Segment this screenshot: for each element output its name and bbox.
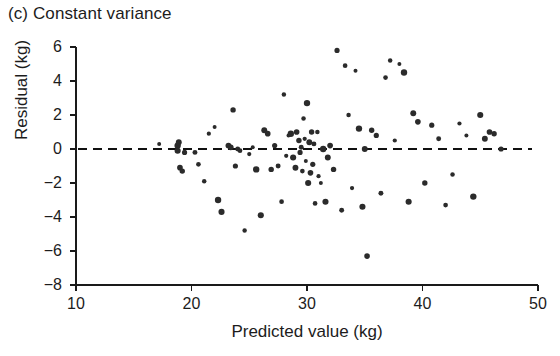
data-point xyxy=(297,150,302,155)
data-point xyxy=(251,145,255,149)
data-point xyxy=(180,168,185,173)
data-point xyxy=(230,107,235,112)
data-point xyxy=(477,112,483,118)
data-point xyxy=(176,139,182,145)
data-point xyxy=(311,141,316,146)
data-point xyxy=(293,165,299,171)
data-point xyxy=(327,143,333,149)
data-point xyxy=(258,212,264,218)
data-point xyxy=(284,154,288,158)
data-point xyxy=(331,167,336,172)
residual-scatter-figure: (c) Constant variance Residual (kg) Pred… xyxy=(0,0,560,356)
data-point xyxy=(369,128,374,133)
data-point xyxy=(401,69,407,75)
data-point xyxy=(378,191,383,196)
data-point xyxy=(290,154,296,160)
data-point xyxy=(196,162,201,167)
data-point xyxy=(268,167,273,172)
data-point xyxy=(415,119,421,125)
data-point xyxy=(294,129,300,135)
data-point xyxy=(193,150,198,155)
data-point xyxy=(436,136,441,141)
data-point xyxy=(300,169,305,174)
data-point xyxy=(410,110,416,116)
data-point xyxy=(304,159,308,163)
data-point xyxy=(443,203,448,208)
data-point xyxy=(215,197,221,203)
data-point xyxy=(397,62,401,66)
data-point xyxy=(299,145,304,150)
data-point xyxy=(238,148,243,153)
data-point xyxy=(364,253,370,259)
data-point xyxy=(276,164,281,169)
data-point xyxy=(406,199,412,205)
scatter-points xyxy=(157,48,503,259)
data-point xyxy=(374,133,379,138)
data-point xyxy=(272,143,277,148)
data-point xyxy=(388,58,392,62)
data-point xyxy=(207,132,211,136)
data-point xyxy=(218,209,224,215)
data-point xyxy=(383,75,388,80)
plot-canvas xyxy=(0,0,560,356)
data-point xyxy=(325,155,331,161)
data-point xyxy=(308,170,314,176)
data-point xyxy=(233,163,238,168)
data-point xyxy=(322,199,328,205)
data-point xyxy=(429,123,434,128)
data-point xyxy=(346,113,350,117)
data-point xyxy=(450,172,454,176)
data-point xyxy=(303,137,307,141)
data-point xyxy=(282,92,286,96)
data-point xyxy=(242,228,246,232)
data-point xyxy=(310,162,315,167)
data-point xyxy=(320,146,326,152)
data-point xyxy=(296,138,301,143)
data-point xyxy=(491,131,496,136)
data-point xyxy=(306,139,312,145)
data-point xyxy=(182,150,187,155)
data-point xyxy=(313,201,318,206)
axes xyxy=(70,47,538,291)
data-point xyxy=(304,100,310,106)
data-point xyxy=(498,146,503,151)
data-point xyxy=(339,208,344,213)
data-point xyxy=(305,180,311,186)
data-point xyxy=(309,129,314,134)
data-point xyxy=(362,146,368,152)
data-point xyxy=(359,204,365,210)
data-point xyxy=(253,166,259,172)
data-point xyxy=(350,186,354,190)
data-point xyxy=(175,148,181,154)
data-point xyxy=(354,69,358,73)
data-point xyxy=(457,121,461,125)
data-point xyxy=(228,144,234,150)
data-point xyxy=(288,131,294,137)
data-point xyxy=(422,180,427,185)
data-point xyxy=(279,199,284,204)
data-point xyxy=(157,142,161,146)
data-point xyxy=(343,63,348,68)
data-point xyxy=(247,152,251,156)
data-point xyxy=(319,181,323,185)
data-point xyxy=(315,130,319,134)
data-point xyxy=(470,193,476,199)
data-point xyxy=(393,138,397,142)
data-point xyxy=(265,131,271,137)
data-point xyxy=(334,48,339,53)
data-point xyxy=(464,133,468,137)
data-point xyxy=(316,174,320,178)
data-point xyxy=(301,116,305,120)
data-point xyxy=(356,125,362,131)
data-point xyxy=(202,179,206,183)
data-point xyxy=(482,136,488,142)
data-point xyxy=(213,125,217,129)
